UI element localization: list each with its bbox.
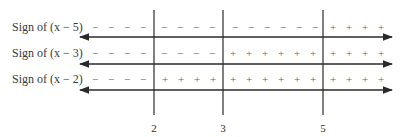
plus-sign: +	[330, 21, 336, 33]
minus-sign: −	[108, 47, 114, 59]
minus-sign: −	[140, 21, 146, 33]
minus-sign: −	[177, 47, 183, 59]
plus-sign: +	[378, 47, 384, 59]
critical-point-label: 3	[220, 122, 226, 134]
minus-sign: −	[280, 21, 286, 33]
plus-sign: +	[262, 73, 268, 85]
plus-sign: +	[230, 47, 236, 59]
plus-sign: +	[362, 47, 368, 59]
plus-sign: +	[330, 73, 336, 85]
minus-sign: −	[108, 73, 114, 85]
plus-sign: +	[230, 73, 236, 85]
minus-sign: −	[92, 47, 98, 59]
plus-sign: +	[346, 47, 352, 59]
row-label: Sign of (x − 3)	[12, 46, 83, 61]
plus-sign: +	[294, 47, 300, 59]
minus-sign: −	[296, 21, 302, 33]
plus-sign: +	[346, 21, 352, 33]
row-label: Sign of (x − 5)	[12, 20, 83, 35]
plus-sign: +	[194, 73, 200, 85]
plus-sign: +	[362, 73, 368, 85]
plus-sign: +	[262, 47, 268, 59]
plus-sign: +	[278, 73, 284, 85]
minus-sign: −	[124, 47, 130, 59]
plus-sign: +	[310, 73, 316, 85]
minus-sign: −	[312, 21, 318, 33]
plus-sign: +	[294, 73, 300, 85]
plus-sign: +	[278, 47, 284, 59]
minus-sign: −	[124, 73, 130, 85]
minus-sign: −	[209, 21, 215, 33]
critical-point-label: 2	[151, 122, 157, 134]
minus-sign: −	[161, 21, 167, 33]
minus-sign: −	[140, 47, 146, 59]
minus-sign: −	[108, 21, 114, 33]
plus-sign: +	[378, 21, 384, 33]
minus-sign: −	[232, 21, 238, 33]
minus-sign: −	[264, 21, 270, 33]
minus-sign: −	[193, 47, 199, 59]
minus-sign: −	[92, 21, 98, 33]
minus-sign: −	[248, 21, 254, 33]
minus-sign: −	[193, 21, 199, 33]
plus-sign: +	[330, 47, 336, 59]
minus-sign: −	[140, 73, 146, 85]
row-label: Sign of (x − 2)	[12, 72, 83, 87]
plus-sign: +	[362, 21, 368, 33]
minus-sign: −	[177, 21, 183, 33]
plus-sign: +	[162, 73, 168, 85]
plus-sign: +	[310, 47, 316, 59]
minus-sign: −	[124, 21, 130, 33]
plus-sign: +	[246, 47, 252, 59]
plus-sign: +	[346, 73, 352, 85]
plus-sign: +	[378, 73, 384, 85]
plus-sign: +	[178, 73, 184, 85]
minus-sign: −	[209, 47, 215, 59]
minus-sign: −	[161, 47, 167, 59]
plus-sign: +	[210, 73, 216, 85]
critical-point-label: 5	[320, 122, 326, 134]
minus-sign: −	[92, 73, 98, 85]
plus-sign: +	[246, 73, 252, 85]
